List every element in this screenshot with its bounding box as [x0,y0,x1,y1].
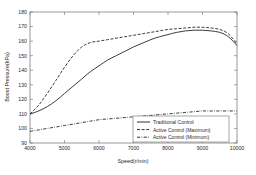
y-tick-label-170: 170 [18,23,27,29]
legend-label-2: Active Control (Minimum) [153,134,209,140]
y-tick-label-150: 150 [18,53,27,59]
y-tick-label-100: 100 [18,125,27,131]
y-tick-label-180: 180 [18,9,27,15]
y-tick-label-90: 90 [21,140,27,146]
x-axis-title: Speed(r/min) [117,158,148,164]
y-tick-label-120: 120 [18,96,27,102]
x-tick-label-8000: 8000 [162,145,174,151]
y-tick-label-160: 160 [18,38,27,44]
x-axis-tick-labels: 40005000600070008000900010000 [24,145,244,151]
chart-legend: Traditional ControlActive Control (Maxim… [133,116,229,142]
x-tick-label-6000: 6000 [93,145,105,151]
y-axis-tick-labels: 90100110120130140150160170180 [18,9,27,146]
legend-label-0: Traditional Control [153,119,194,125]
y-tick-label-140: 140 [18,67,27,73]
x-tick-label-5000: 5000 [59,145,71,151]
x-tick-label-10000: 10000 [230,145,245,151]
y-tick-label-130: 130 [18,82,27,88]
series-line-1 [30,27,237,114]
chart-figure: 40005000600070008000900010000 9010011012… [0,0,256,175]
x-tick-label-7000: 7000 [128,145,140,151]
legend-label-1: Active Control (Maximum) [153,127,211,133]
boost-pressure-line-chart: 40005000600070008000900010000 9010011012… [0,0,256,175]
y-tick-label-110: 110 [19,111,27,117]
x-tick-label-9000: 9000 [197,145,209,151]
y-axis-title: Boost Pressure(kPa) [4,52,10,102]
